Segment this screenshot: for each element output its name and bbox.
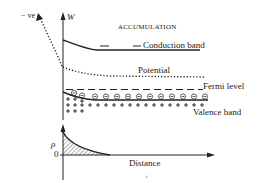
potential-curve [63,67,205,77]
electron-symbols [71,90,207,99]
distance-label: Distance [129,159,161,168]
charge-density-area [63,132,110,155]
fermi-level-label: Fermi level [203,82,244,91]
zero-label: 0 [54,150,59,159]
potential-label: Potential [138,66,170,75]
conduction-band-label: Conduction band [143,41,205,50]
valence-band-label: Valence band [193,108,241,117]
diagram-title: ACCUMULATION [118,24,176,31]
energy-axis-label: W [67,13,75,22]
band-diagram: − ve W ACCUMULATION Conduction band Pote… [0,0,265,183]
potential-axis-label: − ve [21,12,35,20]
footnote-mark: i [146,174,147,179]
charge-density-label: ρ [51,140,55,149]
potential-axis-arrow [36,13,62,66]
